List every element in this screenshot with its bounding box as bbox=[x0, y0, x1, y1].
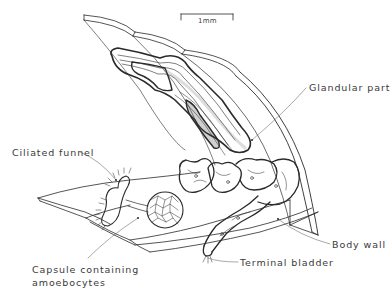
label-body-wall: Body wall bbox=[332, 239, 386, 250]
leader-body-wall bbox=[278, 219, 330, 244]
diagram-canvas: 1mm Glandular part Ciliated funnel Body … bbox=[0, 0, 390, 299]
body-wall-septa bbox=[38, 15, 318, 252]
scale-bar-label: 1mm bbox=[198, 17, 217, 25]
label-ciliated-funnel: Ciliated funnel bbox=[12, 147, 94, 158]
glandular-part-drawing bbox=[111, 48, 251, 155]
ciliated-funnel-drawing bbox=[95, 168, 148, 230]
leader-glandular bbox=[252, 88, 306, 140]
label-terminal-bladder: Terminal bladder bbox=[240, 257, 334, 268]
label-capsule-line1: Capsule containing bbox=[32, 264, 139, 275]
leader-bladder bbox=[208, 258, 238, 262]
capsule-drawing bbox=[147, 192, 183, 228]
label-glandular-part: Glandular part bbox=[309, 82, 390, 93]
label-capsule-line2: amoebocytes bbox=[32, 277, 106, 288]
duct-convolutions bbox=[179, 159, 299, 263]
leader-capsule bbox=[88, 218, 138, 258]
